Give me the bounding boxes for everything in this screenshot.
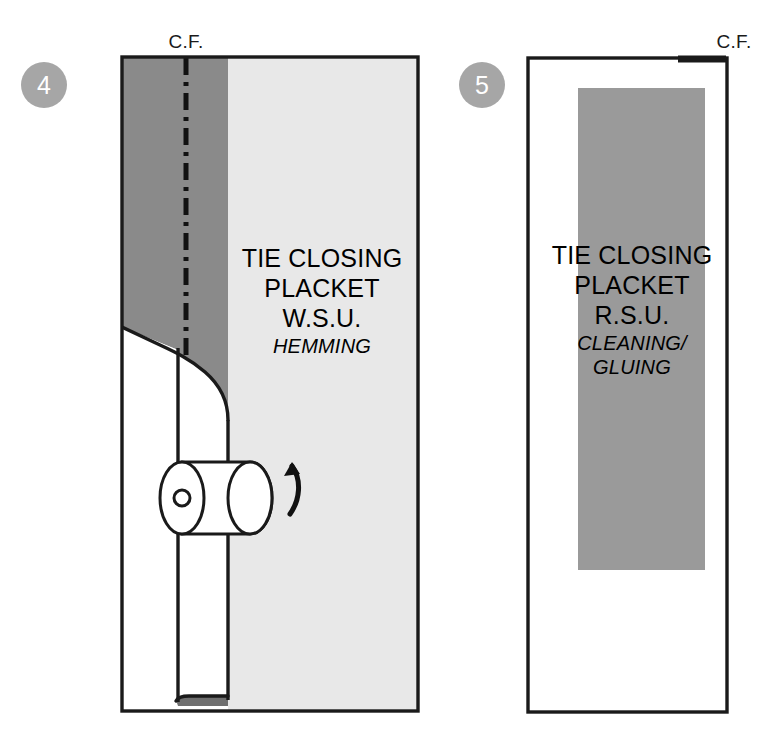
step-4-operation: HEMMING [273,335,371,357]
step-5-line-1: TIE CLOSING [552,241,713,269]
step-4-line-2: PLACKET [264,274,379,302]
roller-axle-hole [174,490,190,506]
technical-sewing-diagram: 4 C.F. [0,0,770,750]
step-5-operation: CLEANING/ [577,332,689,354]
step-4-group: 4 C.F. [21,31,418,711]
diagram-canvas: 4 C.F. [0,0,770,750]
cf-label-step-5: C.F. [717,31,752,52]
step-badge-5: 5 [459,62,505,108]
step-5-line-3: R.S.U. [595,301,670,329]
step-4-line-1: TIE CLOSING [242,244,403,272]
roller-right-cap [228,462,272,534]
step-badge-4-number: 4 [37,71,51,99]
panel-4-light-fabric [228,57,418,711]
step-badge-4: 4 [21,62,67,108]
step-5-group: 5 C.F. TIE CLOSING PLACKET R.S.U. CLEANI… [459,31,751,712]
step-badge-5-number: 5 [475,71,489,99]
cf-label-step-4: C.F. [169,31,204,52]
hemmer-roller-tool [160,462,272,534]
step-5-operation-line-2: GLUING [593,356,671,378]
step-5-line-2: PLACKET [574,271,689,299]
step-4-line-3: W.S.U. [283,304,362,332]
panel-5-placket-block [578,88,705,570]
